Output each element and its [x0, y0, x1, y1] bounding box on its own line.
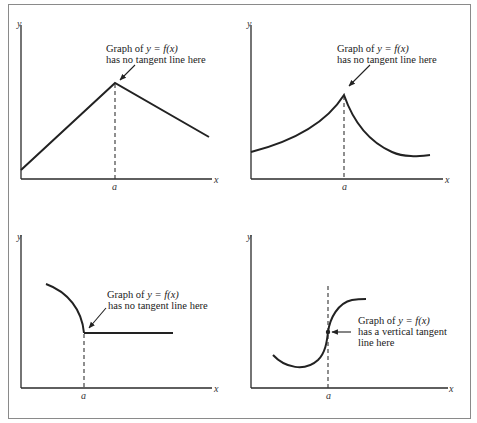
panel-corner: y x a Graph of y = f(x) has no tangent l…: [16, 18, 219, 192]
graph-curve: [251, 95, 430, 156]
y-axis-label: y: [16, 231, 22, 242]
panel-vertical-tangent: y x a Graph of y = f(x) has a vertical t…: [246, 231, 454, 401]
annotation-arrow: [89, 308, 106, 328]
tick-label-a: a: [326, 390, 331, 401]
annotation-line3: line here: [358, 337, 395, 348]
panel-cusp: y x a Graph of y = f(x) has no tangent l…: [246, 18, 450, 192]
panel-jump: y x a Graph of y = f(x) has no tangent l…: [16, 231, 219, 401]
x-axis-label: x: [444, 174, 450, 185]
annotation-arrow: [120, 65, 135, 80]
x-axis-label: x: [213, 383, 219, 394]
tick-label-a: a: [112, 181, 117, 192]
annotation-line2: has no tangent line here: [337, 54, 437, 65]
y-axis-label: y: [16, 18, 22, 29]
tick-label-a: a: [342, 181, 347, 192]
annotation-line2: has a vertical tangent: [358, 326, 447, 337]
annotation-line2: has no tangent line here: [106, 54, 206, 65]
tick-label-a: a: [81, 390, 86, 401]
annotation-line2: has no tangent line here: [108, 300, 208, 311]
graph-curve-arc: [46, 284, 84, 333]
graph-curve: [273, 299, 366, 367]
y-axis-label: y: [246, 231, 252, 242]
x-axis-label: x: [213, 174, 219, 185]
y-axis-label: y: [246, 18, 252, 29]
tangent-line-figure: y x a Graph of y = f(x) has no tangent l…: [0, 0, 477, 423]
tangent-point: [326, 330, 330, 334]
x-axis-label: x: [448, 383, 454, 394]
annotation-arrow: [349, 65, 370, 86]
